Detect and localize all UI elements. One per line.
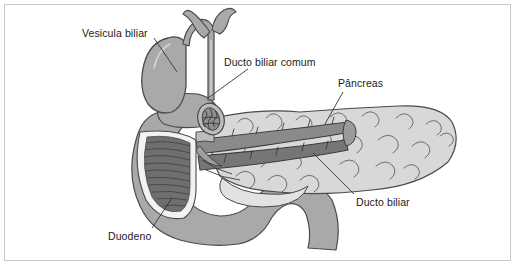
label-ducto-biliar-comum: Ducto biliar comum	[224, 57, 316, 68]
label-vesicula-biliar: Vesicula biliar	[82, 28, 148, 39]
label-ducto-biliar: Ducto biliar	[356, 197, 410, 208]
label-duodeno: Duodeno	[108, 231, 151, 242]
gallbladder-shape	[142, 37, 186, 113]
anatomy-illustration	[0, 0, 515, 265]
label-pancreas: Pâncreas	[338, 78, 383, 89]
anatomy-figure: Vesicula biliar Ducto biliar comum Pâncr…	[0, 0, 515, 265]
biliary-ducts	[183, 8, 236, 100]
